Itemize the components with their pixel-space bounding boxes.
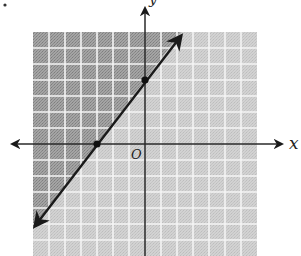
origin-label: O — [131, 147, 142, 162]
coordinate-plane: x y O — [0, 0, 301, 256]
y-axis-label: y — [148, 0, 158, 7]
x-axis-label: x — [289, 133, 299, 153]
point-x-intercept — [93, 140, 100, 147]
point-y-intercept — [141, 76, 148, 83]
corner-dot — [3, 3, 6, 6]
